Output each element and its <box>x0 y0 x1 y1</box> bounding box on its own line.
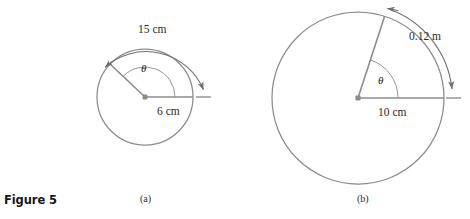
angle-label-a: θ <box>141 62 147 74</box>
angled-radius-line-a <box>110 64 145 97</box>
arc-label-b: 0.12 m <box>409 30 441 42</box>
angle-label-b: θ <box>378 74 384 86</box>
panel-b-group: 0.12 m 10 cm θ <box>272 9 461 185</box>
figure-caption: Figure 5 <box>4 193 57 207</box>
radius-label-a: 6 cm <box>157 105 180 117</box>
figure-drawing: 15 cm 6 cm θ 0.12 m 10 cm θ <box>0 0 470 219</box>
arc-label-a: 15 cm <box>138 23 166 35</box>
center-point-b <box>355 95 360 100</box>
figure-container: 15 cm 6 cm θ 0.12 m 10 cm θ <box>0 0 470 219</box>
panel-label-a: (a) <box>140 193 151 204</box>
panel-label-b: (b) <box>357 193 369 204</box>
theta-arc-b <box>370 60 398 98</box>
panel-a-group: 15 cm 6 cm θ <box>97 23 211 145</box>
radius-label-b: 10 cm <box>378 106 406 118</box>
arc-length-measure-a <box>105 52 203 90</box>
arc-length-measure-b <box>388 9 453 90</box>
theta-arc-a <box>123 67 175 97</box>
center-point-a <box>143 95 148 100</box>
